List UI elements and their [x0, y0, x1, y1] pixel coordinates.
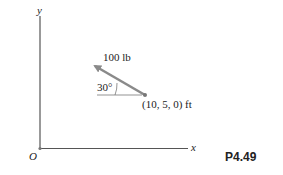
x-axis-label: x	[191, 141, 196, 153]
figure-id: P4.49	[225, 150, 256, 164]
origin-label: O	[29, 150, 37, 162]
point-coordinates-label: (10, 5, 0) ft	[142, 98, 192, 110]
diagram-canvas	[0, 0, 283, 175]
application-point	[143, 93, 147, 97]
y-axis-label: y	[37, 4, 42, 16]
angle-label: 30°	[97, 81, 112, 93]
origin-point	[38, 147, 41, 150]
force-magnitude-label: 100 lb	[103, 51, 131, 63]
angle-arc	[115, 83, 117, 95]
figure: y x O 100 lb 30° (10, 5, 0) ft P4.49	[0, 0, 283, 175]
